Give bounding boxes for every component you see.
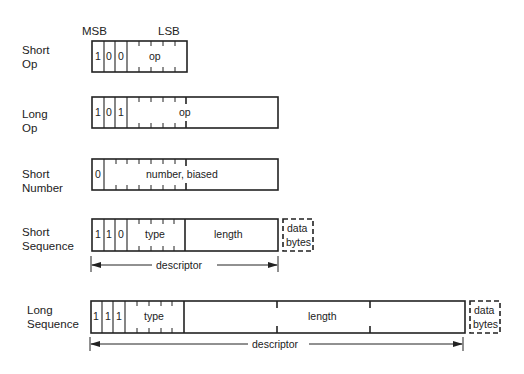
field-label: number, biased xyxy=(146,168,218,180)
field-label: length xyxy=(308,310,337,322)
format-name: Long xyxy=(27,304,53,316)
bit: 1 xyxy=(118,106,124,118)
msb-label: MSB xyxy=(82,25,107,37)
encoding-formats-diagram: MSB LSB Short Op 1 0 0 op Long Op xyxy=(0,0,524,374)
format-long-op: Long Op 1 0 1 op xyxy=(22,97,278,134)
format-short-sequence: Short Sequence 1 1 0 type length data by… xyxy=(22,219,313,272)
bit: 1 xyxy=(105,310,111,322)
bit: 1 xyxy=(106,228,112,240)
field-label: op xyxy=(149,50,161,62)
lsb-label: LSB xyxy=(158,25,180,37)
field-label: type xyxy=(144,310,164,322)
bit: 1 xyxy=(95,106,101,118)
field-label: length xyxy=(214,228,243,240)
descriptor-label: descriptor xyxy=(252,338,299,350)
field-label: type xyxy=(145,228,165,240)
data-label: bytes xyxy=(286,236,311,248)
field-label: op xyxy=(179,106,191,118)
data-label: data xyxy=(287,222,308,234)
bit: 0 xyxy=(106,106,112,118)
format-name: Op xyxy=(22,122,37,134)
bit: 0 xyxy=(118,50,124,62)
format-name: Short xyxy=(22,226,50,238)
format-short-number: Short Number 0 number, biased xyxy=(22,159,278,194)
format-short-op: Short Op 1 0 0 op xyxy=(22,41,187,72)
format-long-sequence: Long Sequence 1 1 1 type length data byt… xyxy=(27,301,500,351)
bit: 0 xyxy=(118,228,124,240)
bit: 0 xyxy=(106,50,112,62)
format-name: Long xyxy=(22,108,48,120)
bit: 0 xyxy=(95,168,101,180)
format-name: Short xyxy=(22,168,50,180)
data-label: bytes xyxy=(473,318,498,330)
descriptor-label: descriptor xyxy=(156,259,203,271)
bit: 1 xyxy=(93,310,99,322)
format-name: Short xyxy=(22,44,50,56)
bit: 1 xyxy=(116,310,122,322)
bit: 1 xyxy=(95,228,101,240)
format-name: Number xyxy=(22,182,63,194)
format-name: Op xyxy=(22,58,37,70)
format-name: Sequence xyxy=(27,318,79,330)
bit: 1 xyxy=(95,50,101,62)
format-name: Sequence xyxy=(22,240,74,252)
data-label: data xyxy=(474,304,495,316)
